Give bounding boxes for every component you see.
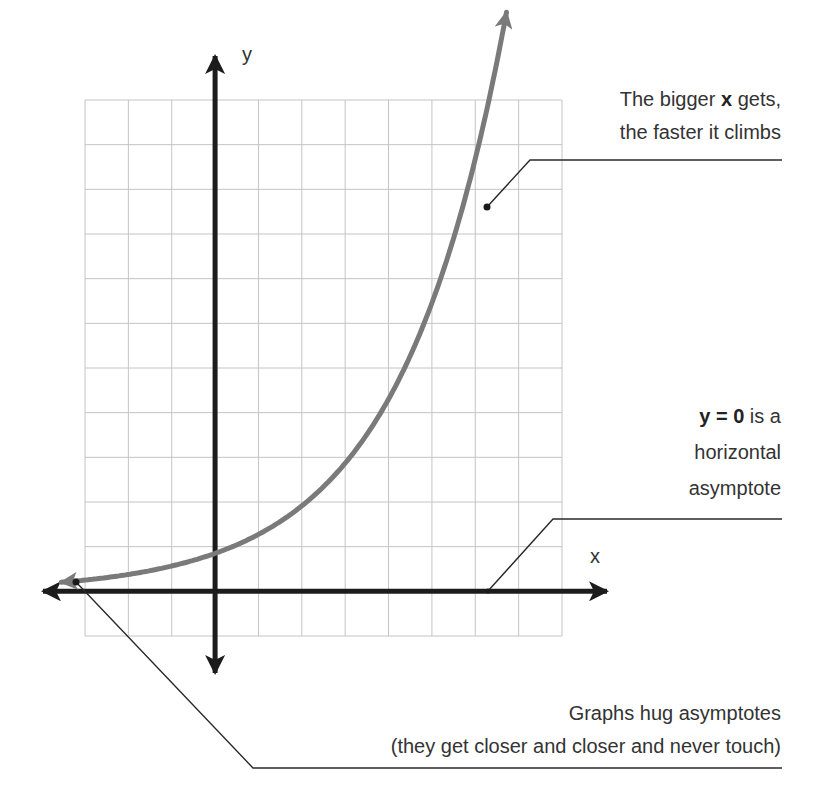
exponential-graph-diagram: y x The bigger x gets, the faster it cli… <box>0 0 821 812</box>
callout-line-growth <box>487 160 782 207</box>
callout-line-asymptote <box>488 519 782 591</box>
annotation-growth: The bigger x gets, the faster it climbs <box>620 83 781 149</box>
annotation-asymptote-line1: y = 0 is a <box>689 398 781 434</box>
annotation-hug-line1: Graphs hug asymptotes <box>391 697 781 730</box>
callout-dot-asymptote <box>486 589 491 594</box>
grid <box>85 100 562 636</box>
y-axis-label: y <box>242 44 252 64</box>
annotation-hug: Graphs hug asymptotes (they get closer a… <box>391 697 781 763</box>
annotation-asymptote-line3: asymptote <box>689 470 781 506</box>
annotation-asymptote: y = 0 is a horizontal asymptote <box>689 398 781 506</box>
callout-dot-growth <box>484 204 491 211</box>
x-axis-label: x <box>590 546 600 566</box>
callout-lines <box>73 160 783 768</box>
annotation-growth-line1: The bigger x gets, <box>620 83 781 116</box>
axes <box>43 56 607 673</box>
annotation-hug-line2: (they get closer and closer and never to… <box>391 730 781 763</box>
annotation-asymptote-line2: horizontal <box>689 434 781 470</box>
callout-dot-hug <box>73 579 80 586</box>
annotation-growth-line2: the faster it climbs <box>620 116 781 149</box>
